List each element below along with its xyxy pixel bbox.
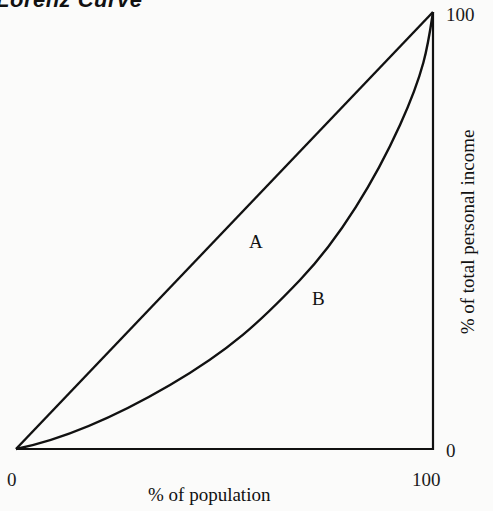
region-a-label: A bbox=[249, 232, 263, 251]
x-axis-label: % of population bbox=[148, 485, 270, 504]
y-tick-min: 0 bbox=[446, 441, 456, 460]
region-b-label: B bbox=[312, 289, 325, 308]
x-tick-min: 0 bbox=[7, 470, 17, 489]
lorenz-plot bbox=[0, 0, 493, 511]
equality-line bbox=[16, 12, 433, 449]
y-axis-label: % of total personal income bbox=[458, 130, 477, 335]
y-tick-max: 100 bbox=[446, 5, 475, 24]
x-tick-max: 100 bbox=[412, 470, 441, 489]
